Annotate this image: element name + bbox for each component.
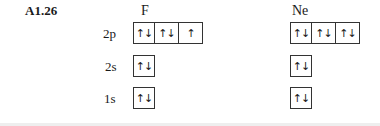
f-1s-orbitals: ↑↓ bbox=[133, 87, 155, 109]
orbital-box: ↑↓ bbox=[133, 55, 155, 77]
orbital-box: ↑↓ bbox=[290, 55, 312, 77]
subshell-label-1s: 1s bbox=[104, 91, 116, 107]
ne-2p-orbitals: ↑↓ ↑↓ ↑↓ bbox=[290, 22, 360, 44]
ne-2s-orbitals: ↑↓ bbox=[290, 55, 312, 77]
orbital-box: ↑↓ bbox=[336, 22, 360, 44]
orbital-box: ↑↓ bbox=[133, 22, 155, 44]
f-2s-orbitals: ↑↓ bbox=[133, 55, 155, 77]
orbital-box: ↑↓ bbox=[155, 22, 179, 44]
element-symbol-ne: Ne bbox=[292, 3, 308, 19]
orbital-box: ↑↓ bbox=[312, 22, 336, 44]
subshell-label-2s: 2s bbox=[105, 59, 117, 75]
bottom-divider bbox=[0, 123, 380, 126]
ne-1s-orbitals: ↑↓ bbox=[290, 87, 312, 109]
orbital-box: ↑↓ bbox=[290, 87, 312, 109]
subshell-label-2p: 2p bbox=[103, 26, 116, 42]
element-symbol-f: F bbox=[141, 3, 149, 19]
f-2p-orbitals: ↑↓ ↑↓ ↑ bbox=[133, 22, 203, 44]
orbital-box: ↑↓ bbox=[133, 87, 155, 109]
orbital-box: ↑↓ bbox=[290, 22, 312, 44]
orbital-box: ↑ bbox=[179, 22, 203, 44]
problem-label: A1.26 bbox=[25, 3, 57, 19]
